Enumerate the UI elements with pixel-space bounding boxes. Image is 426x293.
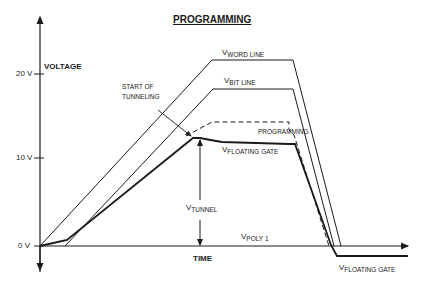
programming-voltage-diagram — [0, 0, 426, 293]
programming-label: PROGRAMMING — [258, 129, 309, 136]
y-axis-label: VOLTAGE — [44, 63, 81, 71]
word-line-curve — [40, 60, 341, 246]
poly1-label: VPOLY 1 — [241, 233, 269, 241]
start-tunneling-label-1: START OF — [122, 84, 153, 91]
tick-label-10v: 10 V — [16, 154, 32, 162]
tick-label-20v: 20 V — [16, 70, 32, 78]
diagram-title: PROGRAMMING — [173, 15, 251, 25]
bit-line-label: VBIT LINE — [224, 77, 256, 85]
v-tunnel-label: VTUNNEL — [185, 204, 218, 212]
tick-label-0v: 0 V — [18, 242, 30, 250]
programming-dashed-curve — [186, 122, 329, 246]
start-tunneling-pointer — [158, 110, 191, 136]
floating-gate-curve — [40, 138, 408, 256]
start-tunneling-label-2: TUNNELING — [122, 94, 160, 101]
word-line-label: VWORD LINE — [222, 49, 264, 57]
floating-gate-label-bottom: VFLOATING GATE — [339, 264, 395, 272]
floating-gate-label-top: VFLOATING GATE — [222, 146, 278, 154]
x-axis-label: TIME — [193, 255, 212, 263]
